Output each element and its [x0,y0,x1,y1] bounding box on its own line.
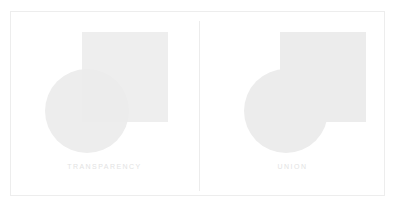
union-shapes-svg [199,12,386,160]
panel-label-transparency: TRANSPARENCY [11,162,198,172]
union-merged-shape [244,32,366,153]
transparency-diagram [11,12,198,160]
panel-union: UNION [199,12,386,195]
panel-transparency: TRANSPARENCY [11,12,198,195]
figure-root: TRANSPARENCY UNION [0,0,395,211]
transparency-square [82,32,168,122]
union-square [280,32,366,122]
union-diagram [199,12,386,160]
transparency-shapes-svg [11,12,198,160]
figure-frame: TRANSPARENCY UNION [10,11,385,196]
panel-label-union: UNION [199,162,386,172]
